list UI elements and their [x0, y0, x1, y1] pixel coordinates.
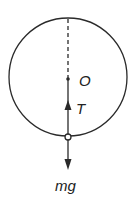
particle — [65, 134, 71, 140]
free-body-diagram: O T mg — [0, 0, 135, 203]
label-center-o: O — [79, 72, 91, 89]
label-tension-t: T — [76, 100, 87, 117]
tension-arrow-icon — [65, 100, 72, 110]
label-weight-mg: mg — [55, 177, 76, 194]
weight-arrow-icon — [65, 159, 72, 170]
